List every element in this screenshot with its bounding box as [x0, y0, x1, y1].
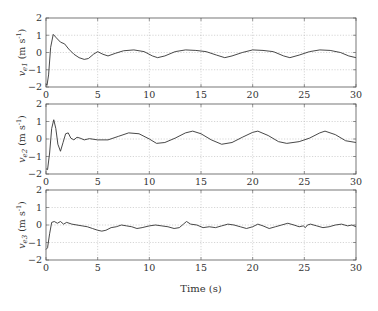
x-axis-label: Time (s) [180, 283, 221, 294]
y-tick-label: −2 [28, 254, 42, 265]
y-axis-label: ve1 (m s-1) [15, 29, 29, 77]
y-axis-label: ve2 (m s-1) [15, 115, 29, 163]
x-tick-label: 30 [350, 89, 362, 100]
x-tick-label: 15 [195, 262, 207, 273]
x-tick-label: 0 [43, 89, 49, 100]
y-axis-label: ve3 (m s-1) [15, 201, 29, 249]
x-tick-label: 10 [143, 89, 155, 100]
y-tick-label: 1 [36, 30, 42, 41]
x-tick-label: 10 [143, 176, 155, 187]
y-tick-label: 2 [36, 98, 42, 109]
x-tick-label: 10 [143, 262, 155, 273]
x-tick-label: 0 [43, 262, 49, 273]
y-tick-label: 0 [36, 133, 42, 144]
x-tick-label: 20 [247, 262, 259, 273]
y-tick-label: −2 [28, 168, 42, 179]
y-tick-label: 1 [36, 116, 42, 127]
subplot-v-e2: 051015202530−2−1012ve2 (m s-1) [15, 98, 362, 187]
y-tick-label: 2 [36, 12, 42, 23]
figure: 051015202530−2−1012ve1 (m s-1) 051015202… [0, 0, 378, 311]
x-tick-label: 30 [350, 176, 362, 187]
subplot-v-e1: 051015202530−2−1012ve1 (m s-1) [15, 12, 362, 100]
x-tick-label: 5 [95, 89, 101, 100]
x-tick-label: 25 [298, 176, 310, 187]
x-tick-label: 0 [43, 176, 49, 187]
y-tick-label: −1 [28, 64, 42, 75]
x-tick-label: 20 [247, 176, 259, 187]
y-tick-label: 1 [36, 202, 42, 213]
y-tick-label: 0 [36, 219, 42, 230]
x-tick-label: 30 [350, 262, 362, 273]
y-tick-label: 0 [36, 47, 42, 58]
subplot-v-e3: 051015202530−2−1012ve3 (m s-1) [15, 184, 362, 273]
x-tick-label: 25 [298, 89, 310, 100]
x-tick-label: 15 [195, 176, 207, 187]
x-tick-label: 25 [298, 262, 310, 273]
y-tick-label: 2 [36, 184, 42, 195]
y-tick-label: −2 [28, 81, 42, 92]
y-tick-label: −1 [28, 237, 42, 248]
x-tick-label: 5 [95, 262, 101, 273]
x-tick-label: 15 [195, 89, 207, 100]
y-tick-label: −1 [28, 151, 42, 162]
x-tick-label: 20 [247, 89, 259, 100]
x-tick-label: 5 [95, 176, 101, 187]
